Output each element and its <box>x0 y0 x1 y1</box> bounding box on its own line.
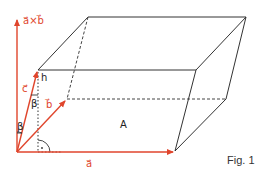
vectors <box>17 20 173 152</box>
solid-edges <box>38 17 246 151</box>
label-cross-product: a⃗×b⃗ <box>23 14 44 26</box>
right-angle-arc <box>38 140 50 152</box>
label-beta-1: β <box>17 121 23 132</box>
label-beta-2: β <box>31 98 37 109</box>
edge-bottom-right <box>175 99 226 151</box>
label-base-area: A <box>120 119 127 130</box>
label-height: h <box>41 72 47 83</box>
label-vector-a: a⃗ <box>86 158 92 169</box>
edge-top-right <box>196 17 246 70</box>
hidden-edges <box>67 17 226 99</box>
edge-top-left <box>38 17 88 70</box>
figure-caption: Fig. 1 <box>227 154 255 166</box>
label-vector-c: c⃗ <box>22 83 28 94</box>
parallelepiped-diagram: a⃗×b⃗ a⃗ b⃗ c⃗ h β β A Fig. 1 <box>0 0 264 182</box>
height-construction <box>38 72 62 152</box>
right-angle-dot <box>41 147 43 149</box>
vector-b <box>17 101 65 152</box>
edge-back-right-vertical <box>226 17 246 99</box>
edge-back-left-vertical <box>67 17 88 99</box>
label-vector-b: b⃗ <box>45 98 53 110</box>
edge-front-right-vertical <box>175 70 196 151</box>
